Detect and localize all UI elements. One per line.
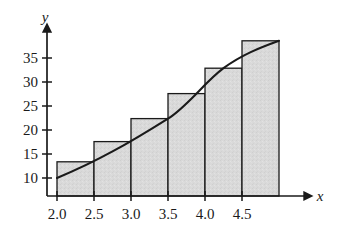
y-tick-label: 35 [23,50,38,66]
x-tick-label: 3.0 [122,206,141,222]
y-tick-label: 20 [23,122,38,138]
table-row [94,142,131,196]
y-tick-label: 15 [23,146,38,162]
x-tick-label: 2.0 [48,206,67,222]
x-axis-label: x [316,188,324,204]
y-tick-label: 10 [23,170,38,186]
riemann-sum-figure: 35 30 25 20 15 10 2.0 2.5 3.0 3.5 4.0 4.… [0,0,338,235]
table-row [168,94,205,196]
plot-canvas: 35 30 25 20 15 10 2.0 2.5 3.0 3.5 4.0 4.… [0,0,338,235]
table-row [242,41,279,196]
x-axis-tick-labels: 2.0 2.5 3.0 3.5 4.0 4.5 [48,206,252,222]
x-tick-label: 4.0 [196,206,215,222]
table-row [205,68,242,196]
x-tick-label: 2.5 [85,206,104,222]
y-tick-label: 30 [23,74,38,90]
y-axis-label: y [40,9,49,25]
y-axis-tick-labels: 35 30 25 20 15 10 [23,50,38,186]
table-row [57,162,94,196]
x-tick-label: 4.5 [233,206,252,222]
y-tick-label: 25 [23,98,38,114]
x-tick-label: 3.5 [159,206,178,222]
